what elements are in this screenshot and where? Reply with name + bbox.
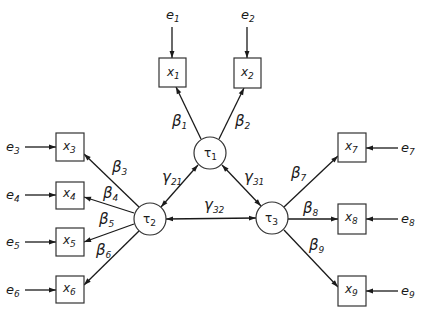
label-beta2: β2: [234, 112, 251, 131]
node-x4: x4: [56, 182, 84, 209]
label-e7: e7: [401, 140, 415, 157]
label-beta6: β6: [95, 241, 112, 260]
observed-boxes: x1 x2 x3 x4 x5 x6 x7 x8: [56, 58, 366, 306]
label-e5: e5: [6, 234, 20, 251]
label-beta5: β5: [98, 210, 115, 229]
label-beta3: β3: [111, 158, 128, 177]
node-x7: x7: [338, 133, 366, 162]
label-gamma21: γ21: [162, 168, 182, 187]
label-beta8: β8: [302, 199, 319, 218]
node-x2: x2: [234, 58, 261, 88]
label-e9: e9: [401, 283, 415, 300]
label-e8: e8: [401, 211, 415, 228]
node-x9: x9: [338, 276, 366, 306]
latent-nodes: τ1 τ2 τ3: [134, 137, 288, 235]
loading-labels: β1 β2 β3 β4 β5 β6 β7 β8 β9: [95, 112, 325, 260]
label-e1: e1: [166, 7, 180, 24]
label-beta9: β9: [308, 236, 325, 255]
path-diagram: x1 x2 x3 x4 x5 x6 x7 x8: [0, 0, 425, 315]
label-gamma31: γ31: [244, 168, 264, 187]
node-tau1: τ1: [194, 137, 226, 169]
node-x1: x1: [159, 58, 186, 87]
label-beta7: β7: [290, 164, 307, 183]
label-beta4: β4: [102, 184, 119, 203]
arrow-gamma32: [166, 218, 256, 219]
node-tau3: τ3: [256, 202, 288, 234]
node-x3: x3: [56, 133, 84, 161]
node-x8: x8: [338, 204, 366, 234]
node-x5: x5: [56, 228, 84, 256]
node-x6: x6: [56, 276, 84, 303]
label-gamma32: γ32: [204, 196, 225, 215]
label-e6: e6: [6, 282, 20, 299]
loading-arrows: [84, 87, 338, 287]
label-e3: e3: [6, 139, 20, 156]
label-e2: e2: [241, 7, 255, 24]
label-beta1: β1: [171, 112, 187, 131]
node-tau2: τ2: [134, 203, 166, 235]
correlation-labels: γ21 γ31 γ32: [162, 168, 264, 215]
label-e4: e4: [6, 187, 20, 204]
